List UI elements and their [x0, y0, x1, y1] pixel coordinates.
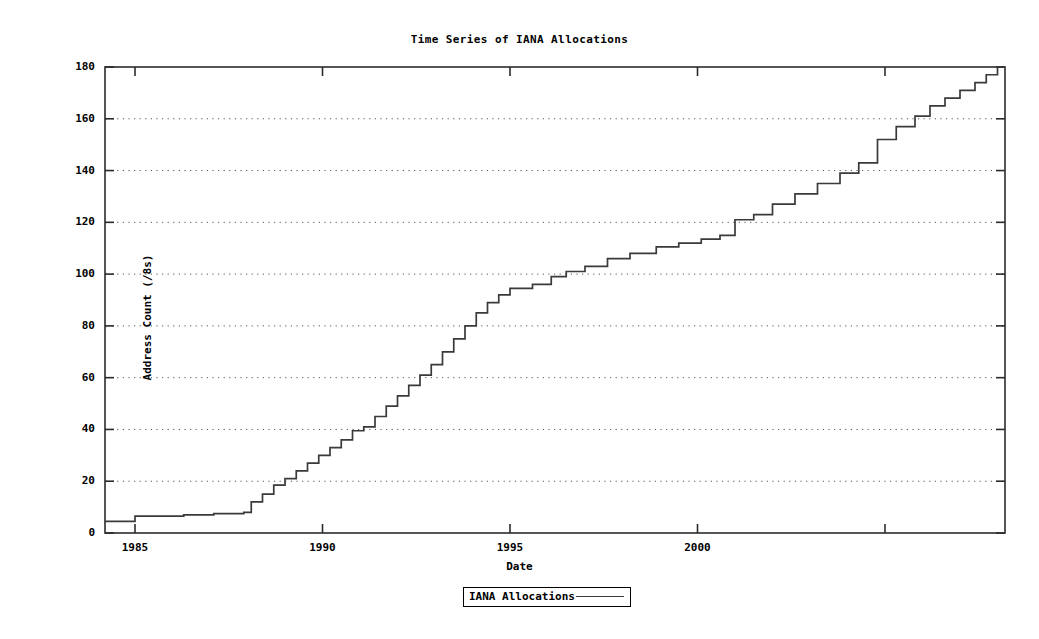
y-axis-tick-label: 40: [35, 422, 95, 435]
y-axis-tick-label: 20: [35, 474, 95, 487]
y-axis-tick-label: 180: [35, 60, 95, 73]
axis-ticks: [105, 67, 1005, 533]
series-line-iana-allocations: [105, 67, 1005, 521]
x-axis-tick-label: 2000: [658, 541, 738, 554]
legend-line-sample: [576, 596, 624, 597]
gridlines: [106, 119, 1004, 481]
y-axis-tick-label: 60: [35, 371, 95, 384]
x-axis-tick-label: 1985: [95, 541, 175, 554]
legend-entry-label: IANA Allocations: [469, 590, 575, 603]
x-axis-tick-label: 1995: [470, 541, 550, 554]
y-axis-tick-label: 120: [35, 215, 95, 228]
y-axis-tick-label: 100: [35, 267, 95, 280]
x-axis-label: Date: [0, 560, 1039, 573]
y-axis-tick-label: 0: [35, 526, 95, 539]
chart-figure: Time Series of IANA Allocations Address …: [0, 0, 1039, 639]
plot-frame: [105, 67, 1005, 533]
legend: IANA Allocations: [463, 587, 631, 607]
y-axis-tick-label: 80: [35, 319, 95, 332]
x-axis-tick-label: 1990: [283, 541, 363, 554]
y-axis-tick-label: 140: [35, 164, 95, 177]
y-axis-tick-label: 160: [35, 112, 95, 125]
